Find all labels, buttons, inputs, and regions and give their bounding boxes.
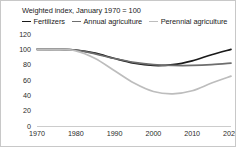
y-axis-tick-label: 100 — [11, 45, 31, 54]
y-axis-tick-label: 40 — [11, 91, 31, 100]
x-axis-tick-label: 2000 — [138, 129, 168, 138]
x-axis-tick-label: 1970 — [22, 129, 52, 138]
series-line-perennial-agriculture — [37, 49, 231, 94]
plot-area — [1, 1, 236, 147]
y-axis-tick-label: 60 — [11, 76, 31, 85]
x-axis-tick-label: 2010 — [177, 129, 207, 138]
x-axis-tick-label: 1980 — [61, 129, 91, 138]
chart-figure: Weighted index, January 1970 = 100 Ferti… — [0, 0, 236, 147]
y-axis-tick-label: 80 — [11, 60, 31, 69]
series-paths — [37, 49, 231, 94]
y-axis-tick-label: 20 — [11, 106, 31, 115]
y-axis-tick-label: 120 — [11, 30, 31, 39]
x-axis-tick-label: 2020 — [216, 129, 236, 138]
x-axis-tick-label: 1990 — [100, 129, 130, 138]
